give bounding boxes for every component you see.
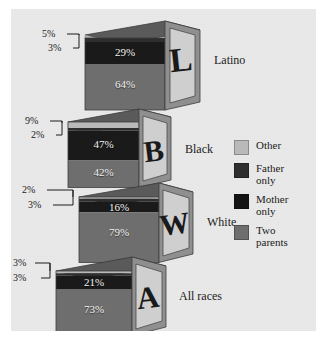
legend-label-two-parents-line1: Two <box>256 225 288 237</box>
legend-label-father-only: Father only <box>256 163 284 186</box>
all-races-leader-top <box>35 263 50 271</box>
legend: Other Father only Mother only Two parent… <box>234 140 314 256</box>
white-segment-father-only <box>79 199 159 202</box>
white-callout-second: 3% <box>28 199 41 210</box>
all-races-callout-second: 3% <box>13 272 26 283</box>
white-group-label: White <box>207 215 236 230</box>
all-races-callout-top: 3% <box>13 257 26 268</box>
legend-item-two-parents[interactable]: Two parents <box>234 225 314 248</box>
black-segment-mother-only <box>68 131 139 161</box>
legend-item-father-only[interactable]: Father only <box>234 163 314 186</box>
latino-leader-top <box>67 34 79 35</box>
all-races-segment-mother-only <box>56 276 132 290</box>
legend-label-other-line1: Other <box>256 140 281 152</box>
all-races-segment-two-parents <box>56 290 132 331</box>
black-callout-second: 2% <box>31 129 44 140</box>
all-races-leader-second <box>41 263 50 278</box>
black-leader-second <box>56 121 62 135</box>
latino-group-label: Latino <box>214 53 245 68</box>
white-segment-mother-only <box>79 201 159 212</box>
legend-item-mother-only[interactable]: Mother only <box>234 194 314 217</box>
legend-label-father-only-line1: Father <box>256 163 284 175</box>
white-leader-second <box>53 190 73 205</box>
white-leader-top <box>47 190 73 197</box>
latino-callout-top: 5% <box>42 28 55 39</box>
white-letter-W: W <box>157 205 191 242</box>
legend-label-mother-only-line2: only <box>256 206 288 218</box>
black-segment-other-front <box>68 122 139 128</box>
latino-letter-L: L <box>168 40 194 79</box>
legend-label-mother-only-line1: Mother <box>256 194 288 206</box>
white-callout-top: 2% <box>22 184 35 195</box>
chart-figure: L 5% 3% 29% 64% Latino B <box>11 9 316 331</box>
all-races-group-label: All races <box>179 289 222 304</box>
legend-label-other: Other <box>256 140 281 152</box>
legend-swatch-mother-only <box>234 194 249 209</box>
black-leader-top <box>50 121 62 123</box>
black-callout-top: 9% <box>25 115 38 126</box>
legend-label-two-parents-line2: parents <box>256 237 288 249</box>
legend-item-other[interactable]: Other <box>234 140 314 155</box>
black-group-label: Black <box>185 142 213 157</box>
block-latino-shape: L <box>11 9 316 119</box>
latino-callout-second: 3% <box>48 42 61 53</box>
all-races-segment-father-only <box>56 273 132 275</box>
legend-swatch-other <box>234 140 249 155</box>
legend-label-mother-only: Mother only <box>256 194 288 217</box>
legend-label-father-only-line2: only <box>256 175 284 187</box>
black-letter-B: B <box>142 133 166 168</box>
black-segment-father-only <box>68 128 139 131</box>
block-latino[interactable]: L 5% 3% 29% 64% Latino <box>11 9 316 119</box>
legend-swatch-father-only <box>234 163 249 178</box>
legend-label-two-parents: Two parents <box>256 225 288 248</box>
latino-leader-second <box>73 34 79 48</box>
latino-segment-mother-only <box>85 42 165 64</box>
latino-segment-father-only <box>85 38 165 42</box>
block-all-races[interactable]: A 3% 3% 21% 73% All races <box>11 246 316 331</box>
legend-swatch-two-parents <box>234 225 249 240</box>
block-all-races-shape: A <box>11 246 316 331</box>
